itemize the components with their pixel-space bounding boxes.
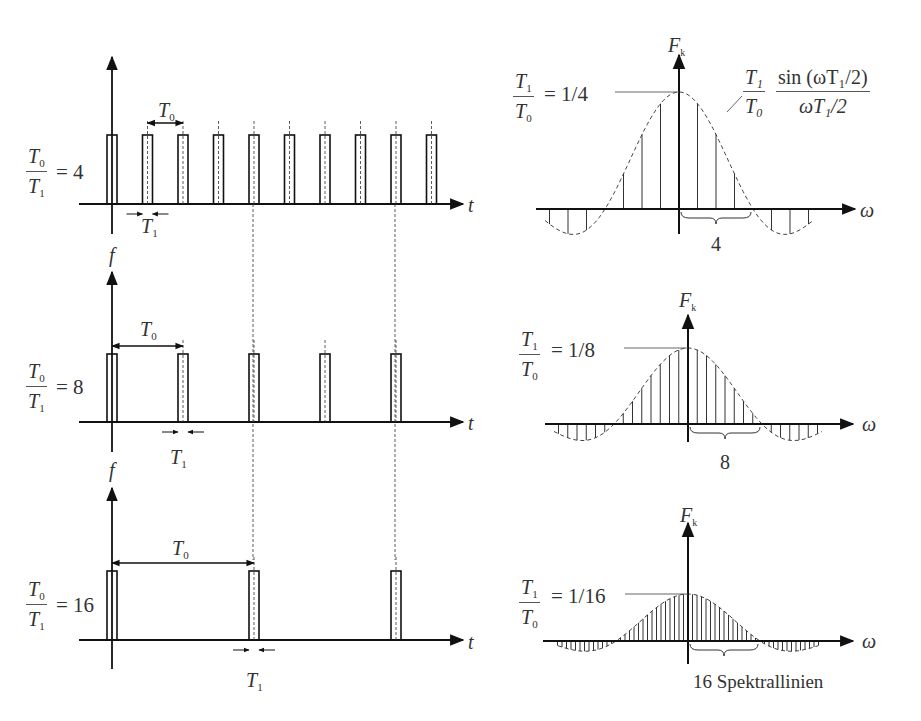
width-label-row1: T1	[141, 216, 158, 239]
ratio-value-row3: = 16	[56, 593, 94, 618]
brace-label-2: 8	[720, 452, 730, 472]
period-label-row3: T0	[172, 538, 189, 561]
ratio-label-row2: T0 T1	[26, 360, 47, 414]
lobe-brace	[690, 644, 758, 656]
peak-value-2: = 1/8	[551, 338, 595, 363]
omega-axis-label-2: ω	[862, 414, 876, 434]
ratio-label-row3: T0 T1	[26, 578, 47, 632]
time-domain-plots	[79, 57, 463, 669]
peak-value-3: = 1/16	[551, 584, 605, 609]
time-plot-row2	[79, 272, 463, 452]
width-label-row2: T1	[170, 447, 187, 470]
time-plot-row1	[79, 57, 463, 234]
peak-label-1: T1 T0	[513, 70, 534, 124]
time-plot-row3	[79, 488, 463, 669]
spectrum-axis-label-2: Fk	[679, 290, 696, 313]
time-axis-label-row3: t	[468, 632, 474, 652]
signal-axis-label-row3: f	[109, 460, 115, 480]
formula-leader-line	[727, 96, 742, 112]
brace-label-1: 4	[711, 234, 721, 254]
ratio-label-row1: T0 T1	[26, 145, 47, 199]
brace-label-3: 16 Spektrallinien	[693, 672, 823, 691]
spectrum-plot-2	[545, 315, 853, 442]
lobe-brace	[681, 212, 751, 224]
width-label-row3: T1	[246, 670, 263, 693]
spectrum-axis-label-3: Fk	[680, 505, 697, 528]
peak-label-3: T1 T0	[519, 576, 540, 630]
peak-value-1: = 1/4	[544, 82, 588, 107]
time-axis-label-row2: t	[468, 413, 474, 433]
time-axis-label-row1: t	[468, 195, 474, 215]
signal-axis-label-row2: f	[109, 245, 115, 265]
envelope-sinc-fraction: sin (ωT₁/2) ωT₁/2	[776, 66, 870, 118]
period-label-row2: T0	[140, 319, 157, 342]
ratio-value-row1: = 4	[56, 160, 84, 185]
period-label-row1: T0	[158, 100, 175, 123]
omega-axis-label-3: ω	[862, 631, 876, 651]
ratio-value-row2: = 8	[56, 375, 84, 400]
peak-label-2: T1 T0	[519, 328, 540, 382]
spectrum-axis-label-1: Fk	[668, 35, 685, 58]
envelope-coefficient: T₁ T₀	[743, 66, 765, 118]
lobe-brace	[690, 427, 760, 439]
omega-axis-label-1: ω	[860, 200, 874, 220]
